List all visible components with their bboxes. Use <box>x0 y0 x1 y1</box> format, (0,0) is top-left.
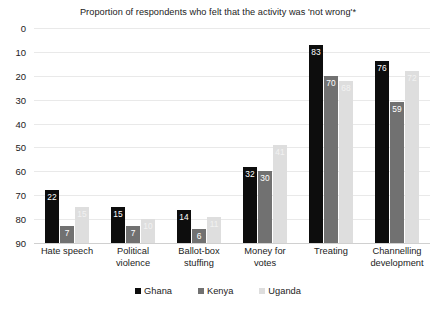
bar-ghana: 14 <box>177 210 191 243</box>
bar-uganda: 15 <box>75 207 89 243</box>
bar-kenya: 7 <box>60 226 74 243</box>
bar-ghana: 22 <box>45 190 59 243</box>
y-axis-tick: 20 <box>15 70 26 81</box>
legend-label: Ghana <box>144 286 172 296</box>
x-axis-category-label: Hate speech <box>34 246 100 258</box>
y-axis-tick: 50 <box>15 142 26 153</box>
bar-uganda: 68 <box>339 81 353 243</box>
bar-value-label: 10 <box>141 221 155 231</box>
bar-value-label: 83 <box>309 47 323 57</box>
bar-value-label: 70 <box>324 78 338 88</box>
bar-uganda: 72 <box>405 71 419 243</box>
legend-item-ghana[interactable]: Ghana <box>135 286 172 296</box>
bars-layer: 227151571014611323041837068765972 <box>34 28 430 243</box>
y-axis-tick: 30 <box>15 94 26 105</box>
x-axis-category-label: Ballot-box stuffing <box>166 246 232 269</box>
bar-value-label: 41 <box>273 147 287 157</box>
bar-group: 837068 <box>298 28 364 243</box>
y-axis-tick: 90 <box>15 238 26 249</box>
bar-group: 323041 <box>232 28 298 243</box>
gridline <box>34 243 430 244</box>
legend-item-kenya[interactable]: Kenya <box>198 286 233 296</box>
bar-group: 22715 <box>34 28 100 243</box>
y-axis: 0102030405060708090 <box>0 28 30 243</box>
bar-value-label: 32 <box>243 169 257 179</box>
chart-title: Proportion of respondents who felt that … <box>0 6 436 18</box>
y-axis-tick: 70 <box>15 190 26 201</box>
bar-value-label: 76 <box>375 63 389 73</box>
bar-ghana: 76 <box>375 61 389 243</box>
y-axis-tick: 40 <box>15 118 26 129</box>
bar-value-label: 30 <box>258 173 272 183</box>
x-axis-category-label: Treating <box>298 246 364 258</box>
legend-swatch-icon <box>198 288 204 294</box>
bar-value-label: 7 <box>60 228 74 238</box>
bar-kenya: 6 <box>192 229 206 243</box>
bar-uganda: 10 <box>141 219 155 243</box>
y-axis-tick: 0 <box>21 23 26 34</box>
bar-chart: Proportion of respondents who felt that … <box>0 0 436 312</box>
legend-label: Kenya <box>207 286 233 296</box>
bar-value-label: 15 <box>75 209 89 219</box>
bar-value-label: 68 <box>339 83 353 93</box>
bar-value-label: 11 <box>207 219 221 229</box>
bar-group: 15710 <box>100 28 166 243</box>
chart-legend: GhanaKenyaUganda <box>0 286 436 296</box>
legend-label: Uganda <box>268 286 301 296</box>
bar-kenya: 70 <box>324 76 338 243</box>
bar-group: 14611 <box>166 28 232 243</box>
plot-area: 227151571014611323041837068765972 <box>34 28 430 243</box>
bar-value-label: 7 <box>126 228 140 238</box>
bar-ghana: 32 <box>243 167 257 243</box>
bar-value-label: 72 <box>405 73 419 83</box>
bar-uganda: 11 <box>207 217 221 243</box>
bar-ghana: 15 <box>111 207 125 243</box>
bar-value-label: 22 <box>45 192 59 202</box>
bar-group: 765972 <box>364 28 430 243</box>
x-axis-category-label: Money for votes <box>232 246 298 269</box>
bar-value-label: 59 <box>390 104 404 114</box>
bar-kenya: 30 <box>258 171 272 243</box>
bar-ghana: 83 <box>309 45 323 243</box>
x-axis-category-label: Channelling development <box>364 246 430 269</box>
bar-value-label: 6 <box>192 231 206 241</box>
legend-swatch-icon <box>135 288 141 294</box>
bar-kenya: 59 <box>390 102 404 243</box>
y-axis-tick: 60 <box>15 166 26 177</box>
y-axis-tick: 80 <box>15 214 26 225</box>
y-axis-tick: 10 <box>15 46 26 57</box>
bar-uganda: 41 <box>273 145 287 243</box>
legend-item-uganda[interactable]: Uganda <box>259 286 301 296</box>
bar-kenya: 7 <box>126 226 140 243</box>
x-axis: Hate speechPolitical violenceBallot-box … <box>34 246 430 280</box>
bar-value-label: 14 <box>177 212 191 222</box>
x-axis-category-label: Political violence <box>100 246 166 269</box>
bar-value-label: 15 <box>111 209 125 219</box>
legend-swatch-icon <box>259 288 265 294</box>
